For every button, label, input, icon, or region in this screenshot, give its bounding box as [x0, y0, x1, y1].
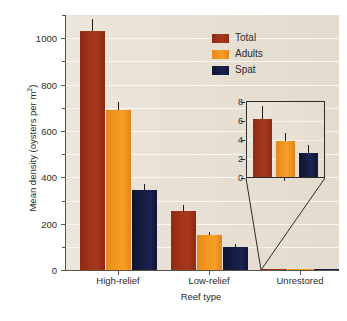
- legend-label-spat: Spat: [235, 65, 256, 75]
- y-axis-title-close: ): [27, 85, 38, 88]
- y-tick-minor: [62, 201, 65, 202]
- inset-ytick: [241, 140, 245, 141]
- inset-ytick: [241, 178, 245, 179]
- errorbar-high-relief-adults: [118, 102, 119, 110]
- legend-item-total: Total: [212, 31, 263, 45]
- legend-item-adults: Adults: [212, 47, 263, 61]
- gridline: [66, 61, 339, 62]
- bar-high-relief-adults: [106, 110, 131, 270]
- figure-oyster-density: Total Adults Spat: [0, 0, 347, 321]
- y-axis-title-superscript: 2: [26, 88, 33, 92]
- x-axis-line: [65, 270, 339, 271]
- inset-plot-area: [246, 101, 325, 178]
- inset-chart-unrestored: 8 6 4 2 0: [230, 101, 325, 180]
- y-tick-label: 600: [41, 126, 57, 137]
- errorbar-low-relief-adults: [209, 232, 210, 236]
- y-tick-major: [61, 270, 65, 271]
- inset-bar-adults: [276, 141, 295, 177]
- y-tick-minor: [62, 61, 65, 62]
- y-tick-major: [61, 85, 65, 86]
- y-tick-major: [61, 224, 65, 225]
- inset-xtick: [284, 177, 285, 181]
- errorbar-high-relief-total: [92, 19, 93, 31]
- inset-ytick: [241, 159, 245, 160]
- legend-swatch-total: [212, 34, 229, 43]
- bar-low-relief-adults: [197, 235, 222, 270]
- legend-label-adults: Adults: [235, 49, 263, 59]
- inset-bar-spat: [299, 153, 318, 178]
- legend-swatch-spat: [212, 66, 229, 75]
- inset-ytick: [241, 121, 245, 122]
- y-tick-major: [61, 38, 65, 39]
- x-tick-label-high-relief: High-relief: [96, 275, 139, 286]
- bar-high-relief-spat: [132, 190, 157, 270]
- x-tick-label-unrestored: Unrestored: [277, 275, 324, 286]
- legend-swatch-adults: [212, 50, 229, 59]
- y-tick-major: [61, 131, 65, 132]
- y-axis-title: Mean density (oysters per m2): [26, 53, 38, 243]
- legend-label-total: Total: [235, 33, 256, 43]
- y-tick-minor: [62, 247, 65, 248]
- y-tick-label: 0: [52, 265, 57, 276]
- x-tick-label-low-relief: Low-relief: [188, 275, 229, 286]
- x-axis-title: Reef type: [181, 291, 222, 302]
- bar-low-relief-total: [171, 211, 196, 270]
- bar-high-relief-total: [80, 31, 105, 270]
- plot-area: Total Adults Spat: [66, 15, 339, 270]
- inset-errorbar-adults: [285, 133, 286, 142]
- inset-bar-total: [253, 119, 272, 178]
- inset-ytick: [241, 102, 245, 103]
- legend: Total Adults Spat: [212, 31, 263, 79]
- gridline: [66, 38, 339, 39]
- y-tick-major: [61, 177, 65, 178]
- inset-errorbar-total: [262, 106, 263, 118]
- y-tick-minor: [62, 154, 65, 155]
- gridline: [66, 85, 339, 86]
- y-tick-label: 800: [41, 79, 57, 90]
- y-tick-label: 200: [41, 218, 57, 229]
- y-tick-label: 1000: [36, 33, 57, 44]
- y-tick-label: 400: [41, 172, 57, 183]
- y-axis-line: [65, 15, 66, 271]
- bar-low-relief-spat: [223, 247, 248, 270]
- errorbar-high-relief-spat: [144, 184, 145, 190]
- errorbar-low-relief-spat: [235, 244, 236, 247]
- y-tick-minor: [62, 15, 65, 16]
- y-axis-title-text: Mean density (oysters per m: [27, 92, 38, 212]
- legend-item-spat: Spat: [212, 63, 263, 77]
- errorbar-low-relief-total: [183, 205, 184, 211]
- y-tick-minor: [62, 108, 65, 109]
- inset-errorbar-spat: [308, 145, 309, 153]
